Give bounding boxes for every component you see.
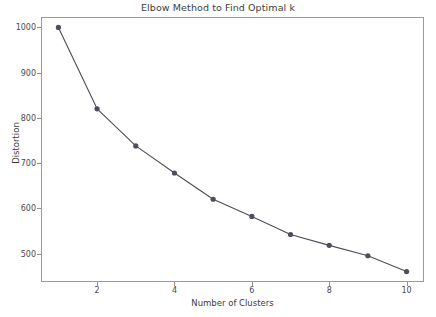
data-point [365, 253, 370, 258]
data-point [211, 197, 216, 202]
data-point [172, 170, 177, 175]
y-axis-tick-mark [37, 254, 41, 255]
data-point [288, 232, 293, 237]
y-axis-tick-label: 800 [21, 113, 36, 122]
distortion-line [58, 27, 406, 271]
y-axis-tick-mark [37, 73, 41, 74]
plot-area [41, 17, 424, 282]
y-axis-tick-mark [37, 163, 41, 164]
data-point [404, 269, 409, 274]
data-point [327, 243, 332, 248]
y-axis-tick-label: 500 [21, 249, 36, 258]
distortion-markers [56, 25, 409, 274]
x-axis-tick-label: 2 [95, 286, 100, 295]
y-axis-tick-label: 600 [21, 204, 36, 213]
x-axis-tick-mark [97, 282, 98, 286]
x-axis-tick-mark [407, 282, 408, 286]
y-axis-tick-label: 900 [21, 68, 36, 77]
x-axis-tick-mark [329, 282, 330, 286]
y-axis-label: Distortion [11, 83, 21, 203]
x-axis-tick-mark [252, 282, 253, 286]
y-axis-tick-label: 700 [21, 159, 36, 168]
y-axis-tick-mark [37, 27, 41, 28]
chart-figure: Elbow Method to Find Optimal k 500600700… [0, 0, 436, 317]
data-point [56, 25, 61, 30]
y-axis-tick-mark [37, 118, 41, 119]
y-axis-tick-mark [37, 208, 41, 209]
y-axis-tick-label: 1000 [16, 23, 36, 32]
x-axis-tick-mark [174, 282, 175, 286]
x-axis-tick-label: 4 [172, 286, 177, 295]
x-axis-tick-label: 8 [327, 286, 332, 295]
x-axis-tick-label: 6 [249, 286, 254, 295]
data-point [249, 214, 254, 219]
data-point [95, 106, 100, 111]
data-point [133, 143, 138, 148]
x-axis-tick-label: 10 [401, 286, 411, 295]
x-axis-label: Number of Clusters [41, 298, 424, 308]
chart-title: Elbow Method to Find Optimal k [0, 2, 436, 13]
